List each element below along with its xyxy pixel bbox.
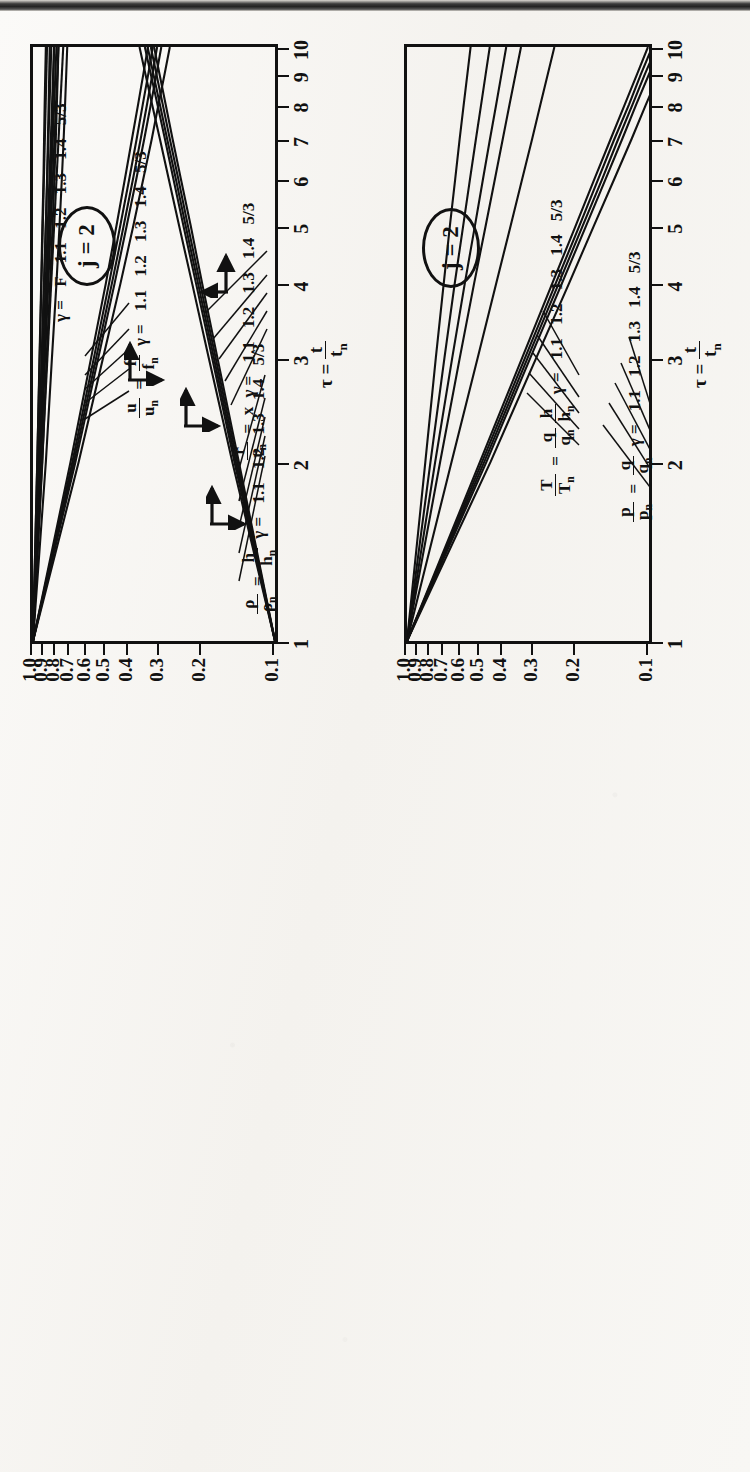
y-tick: [67, 644, 69, 655]
x-tick-label: 7: [290, 137, 313, 147]
x-tick-label: 2: [290, 460, 313, 470]
curve-T-qh: [407, 47, 471, 641]
y-tick: [441, 644, 443, 655]
y-tick: [157, 644, 159, 655]
y-tick: [41, 644, 43, 655]
legend-p-gammas: γ = 1.1 1.2 1.3 1.4 5/3: [625, 242, 645, 446]
legend-r-over-rn: rrn = x γ = 1.1 1.2 1.3 1.4 5/3: [230, 194, 269, 460]
y-tick: [103, 644, 105, 655]
gamma-val-r-1: 1.2: [239, 307, 259, 328]
x-tick: [278, 642, 289, 644]
y-tick-label: 0.4: [489, 658, 511, 682]
y-tick-label: 0.2: [188, 658, 210, 682]
x-tick: [652, 642, 663, 644]
curve-lines-b: [407, 47, 649, 641]
gamma-val-T-3: 1.4: [547, 234, 567, 255]
gamma-prefix-T: γ =: [547, 372, 567, 394]
x-tick-label: 1: [290, 639, 313, 649]
y-tick-label: 0.1: [261, 658, 283, 682]
gamma-val-F-2: 1.2: [51, 207, 71, 228]
x-tick-label: 1: [664, 639, 687, 649]
y-tick-label: 0.5: [92, 658, 114, 682]
y-tick: [272, 644, 274, 655]
y-tick: [53, 644, 55, 655]
x-tick: [652, 75, 663, 77]
direction-arrow-2: [180, 380, 230, 432]
t-over-tn-b: t tn: [680, 341, 724, 359]
secondary-axis-a: 321: [30, 0, 278, 44]
x-tick: [278, 180, 289, 182]
gamma-val-p-4: 5/3: [625, 251, 645, 273]
gamma-val-F-0: F: [51, 276, 71, 286]
y-tick: [30, 644, 32, 655]
badge-label-a: j = 2: [74, 224, 100, 268]
x-tick-label: 2: [664, 460, 687, 470]
legend-p-expr: ppn = qqn: [616, 456, 655, 522]
x-tick-label: 5: [290, 224, 313, 234]
x-tick: [278, 106, 289, 108]
y-axis-b: 1.00.90.80.70.60.50.40.30.20.1: [404, 644, 652, 718]
gamma-val-r-4: 5/3: [239, 203, 259, 225]
gamma-val-T-4: 5/3: [547, 199, 567, 221]
legend-F-gammas: γ = F 1.1 1.2 1.3 1.4 5/3: [51, 94, 71, 322]
x-tick: [278, 48, 289, 50]
y-tick: [427, 644, 429, 655]
x-tick: [278, 140, 289, 142]
x-tick: [652, 48, 663, 50]
gamma-val-u-1: 1.2: [131, 255, 151, 276]
direction-arrow-1: [206, 478, 256, 530]
x-tick-label: 8: [664, 103, 687, 113]
gamma-val-F-4: 1.4: [51, 138, 71, 159]
x-axis-title-b: τ = t tn: [680, 341, 724, 388]
legend-T-over-Tn: TTn = qqn hhn γ = 1.1 1.2 1.3 1.4 5/3: [538, 190, 577, 496]
y-tick-label: 0.4: [115, 658, 137, 682]
legend-r-rhs: x: [238, 407, 257, 416]
x-tick: [652, 227, 663, 229]
x-axis-title-a: τ = t tn: [306, 341, 350, 388]
legend-T-gammas: γ = 1.1 1.2 1.3 1.4 5/3: [547, 190, 567, 394]
x-tick: [278, 284, 289, 286]
y-tick-label: 0.3: [146, 658, 168, 682]
y-tick: [126, 644, 128, 655]
gamma-val-u-4: 5/3: [131, 151, 151, 173]
x-tick: [652, 284, 663, 286]
x-tick: [652, 106, 663, 108]
y-tick: [646, 644, 648, 655]
badge-j-equals-2-b: j = 2: [422, 208, 480, 288]
x-tick-label: 10: [664, 40, 687, 60]
plot-area-b: [404, 44, 652, 644]
y-tick: [199, 644, 201, 655]
y-tick-label: 0.5: [466, 658, 488, 682]
legend-p-over-pn: ppn = qqn γ = 1.1 1.2 1.3 1.4 5/3: [616, 242, 655, 522]
t-over-tn-a: t tn: [306, 341, 350, 359]
gamma-val-p-3: 1.4: [625, 286, 645, 307]
x-tick: [652, 463, 663, 465]
gamma-val-u-2: 1.3: [131, 221, 151, 242]
gamma-val-F-1: 1.1: [51, 242, 71, 263]
gamma-val-p-2: 1.3: [625, 321, 645, 342]
y-tick: [500, 644, 502, 655]
gamma-val-F-5: 5/3: [51, 103, 71, 125]
x-tick-label: 4: [664, 281, 687, 291]
y-tick: [477, 644, 479, 655]
gamma-val-r-0: 1.1: [239, 341, 259, 362]
x-tick: [278, 463, 289, 465]
gamma-prefix-r: γ =: [239, 376, 259, 398]
gamma-val-p-0: 1.1: [625, 390, 645, 411]
y-tick-label: 0.1: [635, 658, 657, 682]
y-axis-a: 1.00.90.80.70.60.50.40.30.20.1: [30, 644, 278, 718]
figure-page: j = 2 TTn = qqn hhn γ = 1.1 1.2 1.3 1.4 …: [0, 0, 750, 1472]
badge-label-b: j = 2: [438, 226, 464, 270]
curve-T-qh: [407, 47, 554, 641]
y-tick-label: 0.3: [520, 658, 542, 682]
direction-arrow-4: [200, 246, 250, 298]
panel-b-rotator: j = 2 TTn = qqn hhn γ = 1.1 1.2 1.3 1.4 …: [388, 28, 718, 718]
legend-F-family: γ = F 1.1 1.2 1.3 1.4 5/3: [50, 94, 71, 322]
curve-T-qh: [407, 47, 506, 641]
y-tick: [415, 644, 417, 655]
curve-T-qh: [407, 47, 521, 641]
x-tick-label: 6: [290, 177, 313, 187]
gamma-val-T-0: 1.1: [547, 338, 567, 359]
y-tick: [458, 644, 460, 655]
x-tick-label: 9: [664, 72, 687, 82]
